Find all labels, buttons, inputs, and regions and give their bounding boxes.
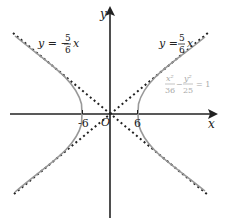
asymptote-pos-den: 6 xyxy=(179,45,185,55)
asymptote-pos-lhs: y = xyxy=(158,37,178,50)
asymptote-neg-den: 6 xyxy=(65,45,71,55)
equation-label: x² 36 − y² 25 = 1 xyxy=(165,74,210,95)
asymptote-neg-var: x xyxy=(73,37,80,50)
hyperbola-diagram: y x O -6 6 y = − 5 6 x y = 5 6 x x² 36 −… xyxy=(0,0,227,224)
equation-y-num: y² xyxy=(183,74,192,83)
y-axis-label: y xyxy=(99,7,107,21)
tick-label-neg-6: -6 xyxy=(78,117,89,130)
equation-y-den: 25 xyxy=(183,86,193,95)
equation-x-num: x² xyxy=(166,74,174,83)
asymptote-neg-num: 5 xyxy=(65,33,71,43)
asymptote-pos-var: x xyxy=(187,37,194,50)
asymptote-pos-num: 5 xyxy=(179,33,185,43)
asymptote-positive-label: y = 5 6 x xyxy=(158,33,194,55)
tick-label-pos-6: 6 xyxy=(134,117,141,130)
equation-minus: − xyxy=(176,80,183,89)
origin-label: O xyxy=(101,116,110,129)
x-axis-label: x xyxy=(208,117,215,131)
equation-rhs: = 1 xyxy=(196,80,210,89)
asymptote-negative-label: y = − 5 6 x xyxy=(37,33,80,55)
equation-x-den: 36 xyxy=(165,86,175,95)
